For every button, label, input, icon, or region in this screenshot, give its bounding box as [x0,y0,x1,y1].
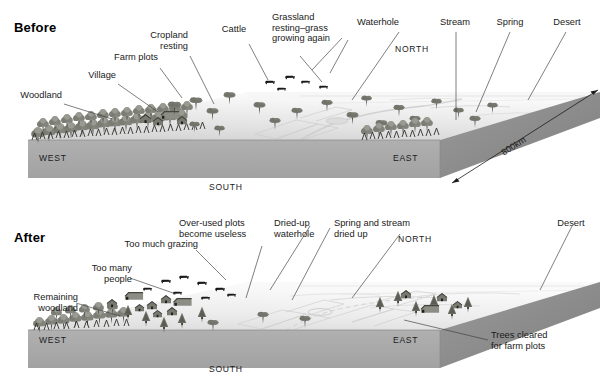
compass-north-before: NORTH [395,44,429,54]
label-cropland-resting: Cropland resting [130,30,188,51]
label-over-used-plots: Over-used plots become useless [179,218,271,239]
label-spring: Spring [488,17,532,28]
compass-south-before: SOUTH [209,182,243,192]
compass-west-after: WEST [39,335,67,345]
panel-before: Before Woodland Village Farm plots Cropl… [0,0,615,192]
label-desert: Desert [544,17,590,28]
label-village: Village [52,70,116,81]
label-too-many-people: Too many people [48,263,132,284]
label-trees-cleared: Trees cleared for farm plots [491,330,581,351]
label-stream: Stream [430,17,480,28]
compass-west-before: WEST [39,153,67,163]
label-dried-up-waterhole: Dried-up waterhole [274,218,332,239]
figure-canvas: Before Woodland Village Farm plots Cropl… [0,0,615,384]
label-cattle: Cattle [212,24,256,35]
compass-east-after: EAST [393,335,418,345]
compass-south-after: SOUTH [209,364,243,374]
panel-title-after: After [14,230,45,245]
label-woodland: Woodland [0,90,62,101]
compass-east-before: EAST [393,153,418,163]
label-farm-plots: Farm plots [84,52,158,63]
panel-after: After Remaining woodland Too many people… [0,192,615,384]
label-remaining-woodland: Remaining woodland [0,292,78,313]
label-waterhole: Waterhole [349,17,407,28]
label-desert-after: Desert [548,218,594,229]
label-too-much-grazing: Too much grazing [88,239,198,250]
panel-title-before: Before [14,20,56,35]
scale-label-800km: 800km [499,135,527,158]
label-grassland-resting: Grassland resting–grass growing again [272,12,344,44]
compass-north-after: NORTH [398,234,432,244]
